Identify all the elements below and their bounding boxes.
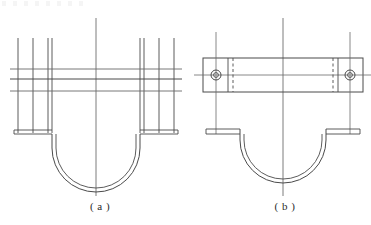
figure-a-right-verticals [140,38,174,133]
figure-a [10,18,182,196]
figure-a-caption: ( a ) [70,200,130,212]
figure-b-ear-right [326,129,360,134]
figure-b [194,18,371,196]
technical-drawing-sheet [0,0,371,225]
drawing-canvas [0,0,371,225]
scan-artifact [2,1,88,6]
figure-b-caption: ( b ) [255,200,315,212]
figure-b-ear-left [206,129,240,134]
figure-a-left-verticals [18,38,52,133]
